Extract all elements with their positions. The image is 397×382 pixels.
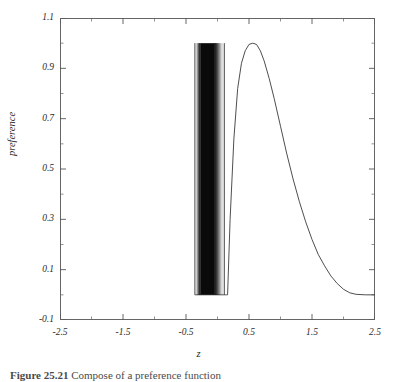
caption-number: Figure 25.21 xyxy=(10,369,68,381)
x-tick-label-2: -1.5 xyxy=(115,328,130,338)
figure-container: 1.1 0.9 0.7 0.5 0.3 0.1 -0.1 -2.5 -1.5 -… xyxy=(0,0,397,382)
y-tick-label-4: 0.5 xyxy=(16,164,54,174)
y-tick-label-1: 1.1 xyxy=(16,13,54,23)
x-tick-label-6: 2.5 xyxy=(369,328,381,338)
y-tick-label-5: 0.3 xyxy=(16,215,54,225)
y-tick-label-3: 0.7 xyxy=(16,114,54,124)
x-tick-label-4: 0.5 xyxy=(243,328,255,338)
x-tick-label-3: -0.5 xyxy=(178,328,193,338)
x-tick-label-1: -2.5 xyxy=(52,328,67,338)
series-oscillating-band xyxy=(195,43,225,295)
y-tick-label-6: 0.1 xyxy=(16,265,54,275)
figure-caption: Figure 25.21 Compose of a preference fun… xyxy=(10,369,390,381)
y-tick-label-7: -0.1 xyxy=(12,315,54,325)
caption-text: Compose of a preference function xyxy=(71,369,221,381)
plot-area xyxy=(60,18,375,320)
x-tick-label-5: 1.5 xyxy=(306,328,318,338)
x-axis-title: z xyxy=(0,348,397,359)
y-axis-title: preference xyxy=(6,112,17,156)
y-tick-label-2: 0.9 xyxy=(16,64,54,74)
plot-svg xyxy=(60,18,375,320)
series-smooth-lobe xyxy=(228,43,375,295)
